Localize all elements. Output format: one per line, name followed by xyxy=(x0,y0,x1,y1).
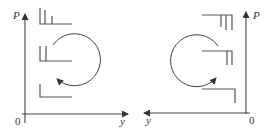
right-step-middle xyxy=(202,51,232,65)
left-panel: P y 0 xyxy=(12,8,128,127)
diagram-canvas: P y 0 P y 0 xyxy=(0,0,271,136)
left-p-label: P xyxy=(12,9,20,21)
right-step-bottom xyxy=(202,89,235,103)
right-panel: P y 0 xyxy=(144,9,260,126)
left-origin-label: 0 xyxy=(15,115,21,127)
left-step-bottom xyxy=(40,84,72,97)
right-cycle-arrow-icon xyxy=(171,35,218,87)
left-step-middle xyxy=(40,46,72,61)
right-y-label: y xyxy=(145,114,151,126)
right-p-label: P xyxy=(252,9,260,21)
left-cycle-arrow-icon xyxy=(53,34,100,86)
left-y-label: y xyxy=(119,115,125,127)
right-origin-label: 0 xyxy=(249,114,255,126)
left-step-top xyxy=(40,8,72,24)
right-step-top xyxy=(202,15,232,30)
